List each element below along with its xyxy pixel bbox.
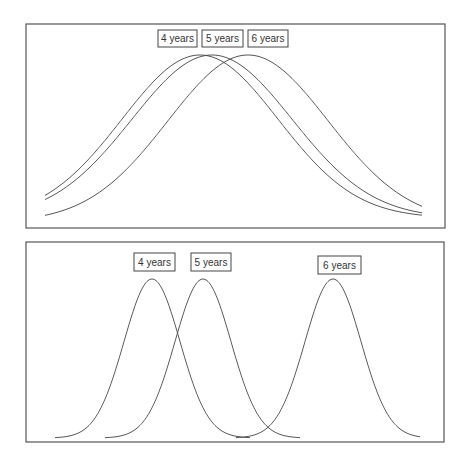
top-panel-frame — [26, 24, 445, 228]
curve-5-years — [105, 279, 300, 438]
curve-4-years — [55, 279, 250, 438]
curve-6-years — [45, 55, 422, 215]
label-text: 5 years — [195, 257, 228, 268]
diagram-canvas: 4 years5 years6 years4 years5 years6 yea… — [0, 0, 466, 457]
curve-6-years — [236, 279, 420, 438]
label-text: 6 years — [323, 260, 356, 271]
curve-5-years — [45, 55, 422, 213]
label-text: 4 years — [138, 257, 171, 268]
label-text: 5 years — [206, 33, 239, 44]
label-text: 4 years — [161, 33, 194, 44]
bottom-panel-frame — [26, 242, 444, 442]
label-text: 6 years — [252, 33, 285, 44]
